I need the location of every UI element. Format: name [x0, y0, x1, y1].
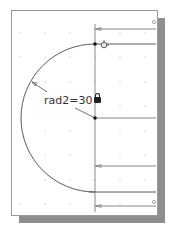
- radius-dimension-text: rad2=30: [44, 94, 92, 107]
- radius-leader: [75, 108, 95, 118]
- lock-icon: [94, 97, 101, 103]
- endpoint-top: [93, 42, 97, 46]
- grid-dots: [19, 32, 145, 204]
- tangent-marker-icon: [152, 20, 155, 23]
- sketch-geometry: [0, 0, 174, 232]
- center-point: [93, 116, 97, 120]
- radius-leader: [32, 82, 47, 92]
- radius-dimension[interactable]: rad2=30: [44, 95, 101, 107]
- sketch-canvas[interactable]: rad2=30: [0, 0, 174, 232]
- arc: [21, 44, 95, 192]
- tangent-marker-icon: [152, 200, 155, 203]
